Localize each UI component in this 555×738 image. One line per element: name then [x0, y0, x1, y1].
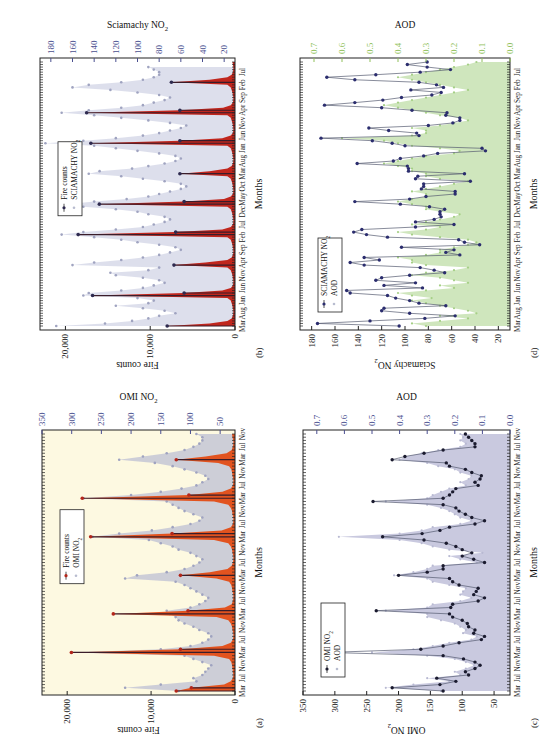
aod-point: [439, 114, 441, 116]
no2-point: [472, 631, 475, 634]
no2-point: [362, 256, 365, 259]
no2-point: [204, 474, 207, 477]
aod-point: [440, 491, 442, 493]
no2-point: [432, 218, 435, 221]
fire-count-point: [80, 496, 84, 500]
aod-point: [425, 289, 427, 291]
x-tick-label: Sep: [239, 92, 247, 103]
no2-point: [484, 149, 487, 152]
no2-point: [189, 606, 192, 609]
x-axis-label: Months: [253, 179, 264, 210]
no2-point: [109, 271, 112, 274]
no2-point: [201, 642, 204, 645]
x-tick-label: Jul: [514, 520, 522, 528]
no2-point: [441, 654, 444, 657]
no2-point: [353, 78, 356, 81]
no2-point: [374, 73, 377, 76]
aod-point: [465, 667, 467, 669]
no2-point: [169, 218, 172, 221]
no2-point: [410, 109, 413, 112]
no2-point: [378, 258, 381, 261]
no2-point: [476, 484, 479, 487]
y-tick-label: 0: [230, 699, 240, 704]
no2-point: [158, 279, 161, 282]
legend-label: Fire counts: [60, 166, 69, 200]
x-tick-label: Oct: [239, 181, 247, 191]
x-tick-label: Jul: [239, 481, 247, 489]
x-tick-label: Jul: [239, 68, 247, 76]
no2-point: [438, 210, 441, 213]
y-tick-label: 20: [493, 334, 503, 344]
no2-point: [420, 187, 423, 190]
no2-point: [115, 137, 118, 140]
no2-point: [159, 542, 162, 545]
x-tick-label: Jul: [514, 481, 522, 489]
no2-point: [147, 302, 150, 305]
y-right-tick-label: 0.2: [449, 43, 459, 54]
no2-point: [198, 442, 201, 445]
x-tick-label: Nov: [239, 505, 247, 518]
aod-point: [453, 216, 455, 218]
x-tick-label: Mar: [514, 453, 522, 466]
aod-point: [432, 565, 434, 567]
no2-point: [345, 289, 348, 292]
aod-point: [383, 140, 385, 142]
fire-count-point: [172, 263, 176, 267]
no2-point: [147, 195, 150, 198]
aod-point: [432, 581, 434, 583]
no2-point: [464, 513, 467, 516]
no2-point: [118, 532, 121, 535]
no2-point: [421, 286, 424, 289]
no2-point: [152, 223, 155, 226]
panel-c: MarJulNovMarJulNovMarJulNovMarJulNovMarJ…: [298, 392, 539, 735]
x-tick-label: Sep: [514, 92, 522, 103]
aod-point: [459, 523, 461, 525]
legend-marker: [325, 667, 328, 670]
no2-point: [464, 432, 467, 435]
aod-point: [439, 218, 441, 220]
no2-point: [177, 507, 180, 510]
aod-point: [425, 208, 427, 210]
aod-point: [453, 66, 455, 68]
aod-point: [411, 190, 413, 192]
no2-point: [473, 445, 476, 448]
no2-point: [185, 185, 188, 188]
x-tick-label: Nov: [239, 620, 247, 633]
aod-point: [454, 671, 456, 673]
no2-point: [136, 91, 139, 94]
aod-point: [453, 279, 455, 281]
y-right-tick-label: 0.7: [309, 42, 319, 54]
no2-point: [451, 490, 454, 493]
aod-point: [397, 231, 399, 233]
no2-point: [441, 448, 444, 451]
y-tick-label: 80: [423, 334, 433, 344]
no2-point: [163, 99, 166, 102]
aod-point: [448, 488, 450, 490]
aod-point: [459, 600, 461, 602]
y-tick-label: 10,000: [145, 334, 155, 359]
no2-point: [470, 516, 473, 519]
no2-point: [115, 147, 118, 150]
x-tick-label: Mar: [514, 684, 522, 697]
no2-point: [457, 509, 460, 512]
no2-point: [441, 503, 444, 506]
no2-point: [201, 439, 204, 442]
aod-point: [454, 513, 456, 515]
x-tick-label: Mar: [239, 167, 247, 180]
x-tick-label: Sep: [239, 244, 247, 255]
no2-point: [362, 263, 365, 266]
no2-point: [483, 635, 486, 638]
no2-point: [476, 587, 479, 590]
no2-point: [418, 70, 421, 73]
aod-point: [459, 626, 461, 628]
fire-count-point: [179, 574, 183, 578]
x-tick-label: Mar: [239, 319, 247, 332]
aod-point: [459, 150, 461, 152]
no2-point: [152, 101, 155, 104]
no2-point: [353, 101, 356, 104]
fire-count-point: [85, 111, 89, 115]
no2-point: [158, 152, 161, 155]
no2-point: [374, 279, 377, 282]
aod-point: [412, 683, 414, 685]
no2-point: [60, 111, 63, 114]
